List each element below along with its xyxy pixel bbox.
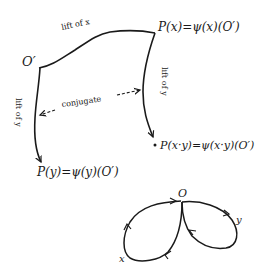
loop-y <box>182 202 237 249</box>
left-lift-of-y-label: lift of y <box>14 98 23 127</box>
origin-label: O <box>178 187 187 200</box>
right-lift-of-y-curve <box>143 33 155 137</box>
point-xy-label: P(x·y)=ψ(x·y)(O′) <box>159 139 254 152</box>
lower-figure: O x y <box>119 187 242 264</box>
origin-prime-label: O′ <box>22 54 36 69</box>
diagram-canvas: O′ P(x)=ψ(x)(O′) P(x·y)=ψ(x·y)(O′) P(y)=… <box>0 0 279 276</box>
loop-x <box>124 201 182 261</box>
lift-of-x-label: lift of x <box>61 17 91 32</box>
right-lift-of-y-label: lift of y <box>160 67 169 96</box>
point-x-label: P(x)=ψ(x)(O′) <box>157 20 240 34</box>
conjugate-label: conjugate <box>61 94 102 109</box>
point-xy-dot <box>154 144 157 147</box>
loop-x-label: x <box>119 253 125 264</box>
point-y-label: P(y)=ψ(y)(O′) <box>36 165 119 179</box>
conjugate-arrow-left <box>40 110 55 115</box>
conjugate-arrow-right <box>117 90 140 95</box>
upper-figure: O′ P(x)=ψ(x)(O′) P(x·y)=ψ(x·y)(O′) P(y)=… <box>14 17 254 179</box>
lift-of-x-curve <box>39 31 155 68</box>
loop-y-label: y <box>235 214 242 225</box>
